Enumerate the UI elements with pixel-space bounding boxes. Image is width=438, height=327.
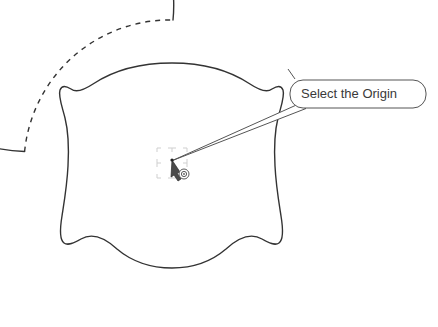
origin-glyph-center-dot [183,173,185,175]
cad-drawing-canvas[interactable]: Select the Origin [0,0,438,327]
cad-viewport[interactable]: Select the Origin [0,0,438,327]
snap-cell-bl [157,174,161,178]
snap-cell-tr [183,148,187,152]
construction-arc[interactable] [25,20,173,152]
callout-tail [173,105,307,161]
snap-cell-tl [157,148,161,152]
snap-cell-mr [183,159,187,167]
snap-cell-ml [157,159,161,167]
origin-glyph [179,169,189,179]
callout-tail-wedge [173,105,307,161]
origin-tooltip-label: Select the Origin [301,86,397,101]
snap-cell-tm [168,148,176,152]
outer-circle[interactable] [0,0,174,152]
origin-tooltip[interactable]: Select the Origin [290,80,426,108]
origin-point[interactable] [170,158,173,161]
outer-circle-solid-arc [0,0,174,152]
callout-tail-hook [288,69,295,79]
construction-arc-dashed [25,20,173,152]
